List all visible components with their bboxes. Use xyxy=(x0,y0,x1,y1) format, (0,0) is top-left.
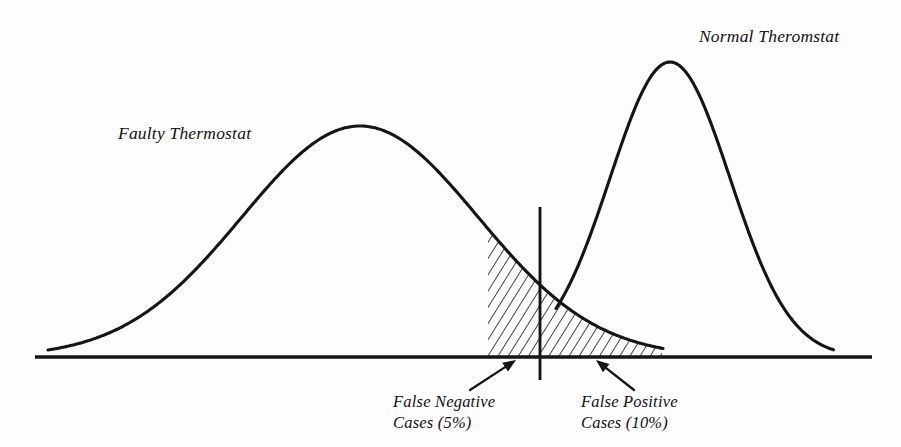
false-negative-arrow-shaft xyxy=(470,367,505,390)
false-positive-annotation: False Positive Cases (10%) xyxy=(581,391,678,433)
overlap-error-region xyxy=(470,190,680,370)
false-positive-arrow-shaft xyxy=(606,368,634,390)
hatch-fill-rect xyxy=(470,190,680,370)
signal-detection-figure: Faulty Thermostat Normal Theromstat Fals… xyxy=(0,0,901,447)
false-negative-arrow-head xyxy=(502,360,516,371)
false-negative-annotation: False Negative Cases (5%) xyxy=(393,391,495,433)
false-positive-line2: Cases (10%) xyxy=(581,412,678,433)
false-positive-arrow xyxy=(596,360,634,390)
false-negative-line2: Cases (5%) xyxy=(393,412,495,433)
false-negative-arrow xyxy=(470,360,516,390)
chart-canvas xyxy=(0,0,901,447)
normal-thermostat-label: Normal Theromstat xyxy=(699,26,839,47)
normal-thermostat-curve xyxy=(556,62,834,350)
faulty-thermostat-label: Faulty Thermostat xyxy=(118,123,251,144)
false-positive-line1: False Positive xyxy=(581,392,678,411)
false-negative-line1: False Negative xyxy=(393,392,495,411)
